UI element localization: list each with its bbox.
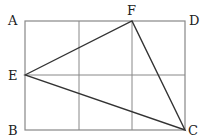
label-d: D: [189, 13, 199, 28]
label-b: B: [8, 123, 18, 137]
label-c: C: [188, 123, 198, 137]
label-a: A: [7, 13, 18, 28]
label-e: E: [8, 68, 18, 83]
geometry-diagram: A F D E B C: [0, 0, 203, 137]
label-f: F: [127, 3, 136, 18]
